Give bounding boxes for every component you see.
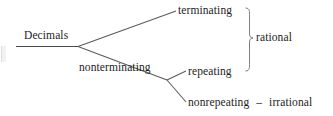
branch-root-to-terminating bbox=[78, 11, 176, 47]
branch-nonterminating-to-repeating bbox=[167, 71, 186, 80]
node-nonrepeating-row: nonrepeating–irrational bbox=[188, 96, 312, 108]
node-terminating: terminating bbox=[178, 4, 232, 16]
dash-separator: – bbox=[249, 96, 269, 108]
branch-nonterminating-to-nonrepeating bbox=[167, 80, 186, 102]
node-repeating: repeating bbox=[188, 65, 232, 77]
node-nonterminating: nonterminating bbox=[79, 61, 151, 73]
rational-grouping-brace bbox=[246, 8, 253, 71]
node-rational: rational bbox=[256, 31, 292, 43]
decimals-tree-figure: Decimals nonterminating terminating repe… bbox=[0, 0, 333, 116]
node-decimals: Decimals bbox=[24, 29, 68, 41]
node-irrational: irrational bbox=[269, 96, 312, 108]
node-nonrepeating: nonrepeating bbox=[188, 96, 249, 108]
